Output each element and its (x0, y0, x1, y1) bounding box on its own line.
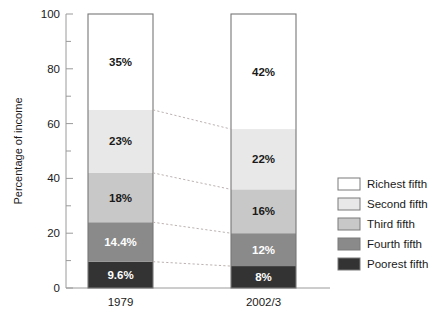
x-axis-category-label: 2002/3 (246, 296, 281, 308)
y-axis-tick-label: 40 (47, 172, 60, 184)
legend-item-label: Second fifth (367, 198, 428, 210)
bar-segment-label: 18% (109, 192, 132, 204)
bar-segment-label: 8% (255, 271, 272, 283)
chart-canvas: 020406080100Percentage of income9.6%14.4… (0, 0, 430, 320)
bar-segment-label: 14.4% (104, 236, 137, 248)
y-axis-tick-label: 20 (47, 227, 60, 239)
bar-segment-label: 12% (252, 244, 275, 256)
legend-swatch (338, 258, 360, 270)
legend-item-label: Third fifth (367, 218, 415, 230)
x-axis-category-label: 1979 (108, 296, 134, 308)
bar-segment-label: 23% (109, 135, 132, 147)
bar-segment-label: 16% (252, 205, 275, 217)
y-axis-tick-label: 60 (47, 118, 60, 130)
legend-swatch (338, 198, 360, 210)
segment-connector-line (153, 110, 231, 129)
y-axis-title: Percentage of income (12, 97, 24, 204)
legend-item-label: Poorest fifth (367, 258, 428, 270)
segment-connector-line (153, 262, 231, 266)
y-axis-tick-label: 80 (47, 63, 60, 75)
legend-swatch (338, 178, 360, 190)
legend-swatch (338, 238, 360, 250)
bar-segment-label: 35% (109, 56, 132, 68)
bar-segment-label: 9.6% (107, 269, 133, 281)
y-axis-tick-label: 100 (41, 8, 60, 20)
legend-item-label: Fourth fifth (367, 238, 422, 250)
y-axis-tick-label: 0 (54, 282, 60, 294)
legend-item-label: Richest fifth (367, 178, 427, 190)
segment-connector-line (153, 173, 231, 189)
segment-connector-line (153, 222, 231, 233)
legend-swatch (338, 218, 360, 230)
bar-segment-label: 22% (252, 153, 275, 165)
bar-segment-label: 42% (252, 66, 275, 78)
stacked-bar-chart: 020406080100Percentage of income9.6%14.4… (0, 0, 430, 320)
